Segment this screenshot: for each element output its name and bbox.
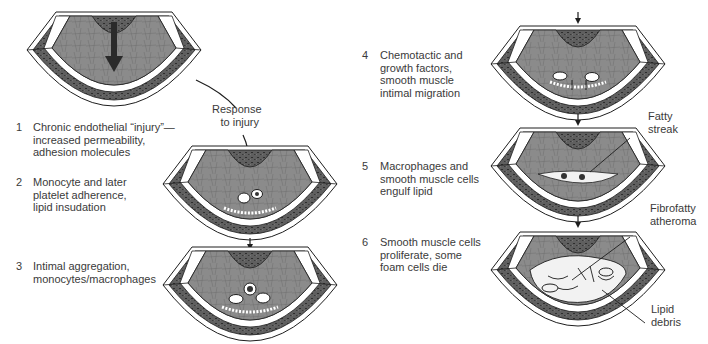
lipid-debris-label: Lipid debris (651, 303, 681, 328)
artery-wedge-step-3 (163, 247, 337, 341)
artery-wedge-step-5 (491, 128, 665, 222)
artery-wedge-step-2 (163, 146, 337, 240)
artery-wedge-step-1 (27, 12, 201, 106)
fibrofatty-atheroma-label: Fibrofatty atheroma (650, 202, 696, 227)
artery-wedge-step-6 (491, 232, 665, 326)
fatty-streak-label: Fatty streak (648, 110, 678, 135)
response-to-injury-label: Response to injury (212, 103, 262, 128)
artery-wedge-step-4 (491, 26, 665, 120)
artery-diagram-canvas (0, 0, 708, 344)
